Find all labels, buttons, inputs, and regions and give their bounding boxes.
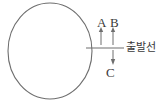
label-starting-line: 출발선 [126,42,156,53]
label-point-a: A [97,16,106,29]
label-point-c: C [106,66,115,79]
circle-with-starting-line-diagram: A B C 출발선 [0,0,164,103]
label-point-b: B [110,16,119,29]
arrow-c [111,50,115,65]
large-circle [8,3,92,99]
